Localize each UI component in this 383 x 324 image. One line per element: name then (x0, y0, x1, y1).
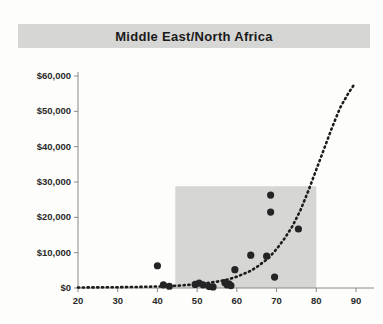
x-axis-tick-label: 70 (263, 295, 291, 306)
x-axis-tick-label: 40 (143, 295, 171, 306)
x-axis-tick-label: 60 (223, 295, 251, 306)
y-axis-tick-label: $0 (60, 282, 71, 293)
scatter-point (271, 273, 278, 280)
scatter-point (154, 262, 161, 269)
y-axis-tick-label: $50,000 (37, 105, 71, 116)
scatter-point (231, 266, 238, 273)
scatter-point (160, 281, 167, 288)
scatter-point (263, 253, 270, 260)
y-axis-tick-label: $60,000 (37, 70, 71, 81)
x-axis-tick-label: 20 (64, 295, 92, 306)
scatter-point (267, 208, 274, 215)
scatter-point (247, 252, 254, 259)
scatter-point (227, 282, 234, 289)
y-axis-tick-label: $20,000 (37, 211, 71, 222)
scatter-plot-svg (0, 0, 383, 324)
y-axis-tick-label: $30,000 (37, 176, 71, 187)
x-axis-tick-label: 50 (183, 295, 211, 306)
scatter-point (295, 225, 302, 232)
y-axis-tick-label: $40,000 (37, 141, 71, 152)
scatter-point (267, 191, 274, 198)
chart-figure: Middle East/North Africa $0$10,000$20,00… (0, 0, 383, 324)
scatter-point (209, 283, 216, 290)
x-axis-tick-label: 30 (104, 295, 132, 306)
y-axis-tick-label: $10,000 (37, 247, 71, 258)
scatter-point (166, 283, 173, 290)
x-axis-tick-label: 90 (342, 295, 370, 306)
x-axis-tick-label: 80 (302, 295, 330, 306)
